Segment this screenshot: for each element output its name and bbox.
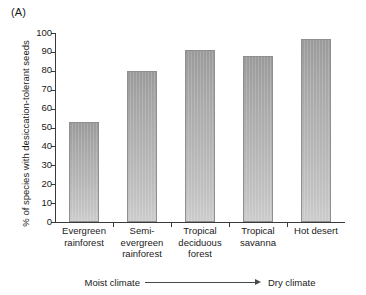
- x-axis-label-3: Tropicaldeciduousforest: [167, 225, 233, 260]
- x-axis-label-line: evergreen: [109, 237, 175, 249]
- y-axis-tick-label: 50: [41, 121, 52, 133]
- x-axis-label-line: Tropical: [225, 225, 291, 237]
- x-axis-label-2: Semi-evergreenrainforest: [109, 225, 175, 260]
- x-axis-label-line: forest: [167, 248, 233, 260]
- x-axis-category-labels: EvergreenrainforestSemi-evergreenrainfor…: [55, 225, 345, 269]
- x-axis-label-line: savanna: [225, 237, 291, 249]
- y-axis-tick-label: 60: [41, 102, 52, 114]
- bar-2: [127, 71, 157, 222]
- x-axis-label-line: Tropical: [167, 225, 233, 237]
- x-axis-line: [55, 222, 345, 223]
- x-axis-label-5: Hot desert: [283, 225, 349, 237]
- x-axis-label-line: Evergreen: [51, 225, 117, 237]
- x-axis-label-line: rainforest: [109, 248, 175, 260]
- climate-gradient-left-label: Moist climate: [85, 277, 140, 288]
- bar-4: [243, 56, 273, 222]
- y-axis-tick-label: 90: [41, 45, 52, 57]
- y-axis-tick-label: 20: [41, 178, 52, 190]
- plot-area: 0102030405060708090100: [55, 33, 345, 222]
- arrow-right-icon: [145, 279, 263, 286]
- bar-1: [69, 122, 99, 222]
- x-axis-label-1: Evergreenrainforest: [51, 225, 117, 248]
- bar-3: [185, 50, 215, 222]
- y-axis-tick-label: 70: [41, 83, 52, 95]
- x-axis-label-line: Hot desert: [283, 225, 349, 237]
- x-axis-label-line: deciduous: [167, 237, 233, 249]
- y-axis-tick-label: 80: [41, 64, 52, 76]
- x-axis-label-4: Tropicalsavanna: [225, 225, 291, 248]
- climate-gradient-right-label: Dry climate: [268, 277, 316, 288]
- x-axis-label-line: Semi-: [109, 225, 175, 237]
- y-axis-tick-label: 30: [41, 159, 52, 171]
- bar-series: [55, 33, 345, 222]
- y-axis-title: % of species with desiccation-tolerant s…: [20, 34, 31, 234]
- y-axis-tick-label: 100: [36, 27, 52, 39]
- bar-5: [301, 39, 331, 222]
- y-axis-tick-label: 10: [41, 197, 52, 209]
- x-axis-label-line: rainforest: [51, 237, 117, 249]
- y-axis-tick-label: 40: [41, 140, 52, 152]
- figure-panel-a: (A) % of species with desiccation-tolera…: [0, 0, 366, 295]
- panel-label: (A): [11, 6, 26, 18]
- climate-gradient-caption: Moist climate Dry climate: [55, 274, 345, 290]
